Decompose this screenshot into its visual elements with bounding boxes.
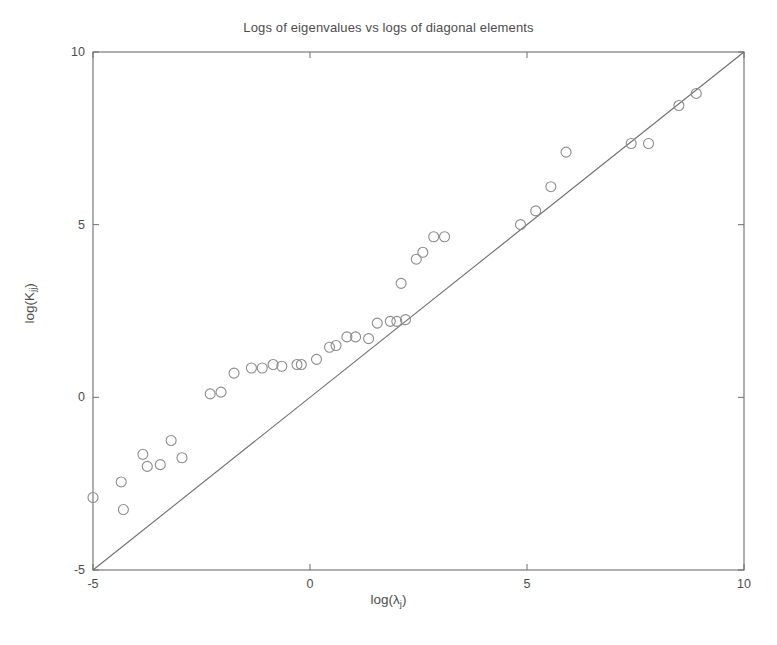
data-point [142, 461, 152, 471]
data-point [312, 354, 322, 364]
data-point [364, 334, 374, 344]
data-point [296, 360, 306, 370]
data-point [229, 368, 239, 378]
data-point [166, 436, 176, 446]
x-axis-label-tail: ) [402, 592, 407, 607]
data-point [257, 363, 267, 373]
data-point [418, 247, 428, 257]
data-point [429, 232, 439, 242]
y-tick-label: 10 [47, 45, 85, 59]
data-point [116, 477, 126, 487]
data-point [531, 206, 541, 216]
x-tick-label: 0 [307, 577, 314, 591]
y-tick-label: 0 [47, 390, 85, 404]
data-point [177, 453, 187, 463]
data-point [292, 360, 302, 370]
y-tick-label: 5 [47, 218, 85, 232]
data-point [325, 342, 335, 352]
y-axis-label-text: log(K [22, 292, 37, 324]
x-axis-label: log(λj) [0, 592, 777, 609]
data-point [644, 139, 654, 149]
y-axis-label-tail: ) [22, 283, 37, 288]
x-axis-label-text: log(λ [371, 592, 400, 607]
data-point [118, 505, 128, 515]
data-point [216, 387, 226, 397]
scatter-plot [0, 0, 777, 645]
data-points [88, 88, 701, 514]
data-point [440, 232, 450, 242]
y-axis-label-subscript: jj [27, 288, 38, 292]
data-point [515, 220, 525, 230]
identity-line [93, 52, 744, 570]
data-point [372, 318, 382, 328]
data-point [546, 182, 556, 192]
data-point [561, 147, 571, 157]
y-axis-label: log(Kjj) [22, 243, 39, 363]
x-tick-label: 5 [524, 577, 531, 591]
data-point [626, 139, 636, 149]
data-point [155, 460, 165, 470]
y-tick-label: -5 [47, 563, 85, 577]
data-point [246, 363, 256, 373]
data-point [205, 389, 215, 399]
data-point [674, 101, 684, 111]
data-point [331, 341, 341, 351]
x-tick-label: -5 [87, 577, 98, 591]
x-tick-label: 10 [737, 577, 751, 591]
data-point [396, 278, 406, 288]
figure-container: Logs of eigenvalues vs logs of diagonal … [0, 0, 777, 645]
data-point [138, 449, 148, 459]
